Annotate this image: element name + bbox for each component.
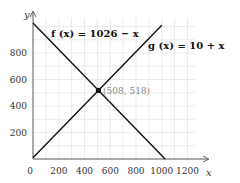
svg-text:600: 600 [102, 166, 119, 176]
svg-text:400: 400 [76, 166, 93, 176]
intersection-point [96, 88, 101, 93]
svg-text:1000: 1000 [150, 166, 173, 176]
svg-text:800: 800 [127, 166, 144, 176]
svg-text:200: 200 [10, 128, 27, 138]
svg-text:200: 200 [50, 166, 67, 176]
x-tick-labels: 0 200 400 600 800 1000 1200 [27, 166, 199, 176]
svg-text:1200: 1200 [176, 166, 199, 176]
svg-text:400: 400 [10, 101, 27, 111]
y-axis-label: y [23, 9, 30, 20]
g-equation-label: g (x) = 10 + x [148, 40, 225, 51]
svg-text:800: 800 [10, 48, 27, 58]
svg-text:600: 600 [10, 75, 27, 85]
chart: y x 0 200 400 600 800 1000 1200 200 400 … [0, 0, 240, 183]
x-axis-label: x [206, 167, 212, 178]
y-tick-labels: 200 400 600 800 [10, 48, 27, 138]
svg-text:0: 0 [27, 166, 33, 176]
f-equation-label: f (x) = 1026 − x [51, 28, 140, 39]
intersection-label: (508, 518) [103, 86, 150, 96]
